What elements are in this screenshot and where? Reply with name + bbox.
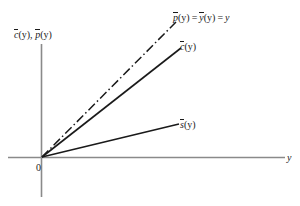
y-symbol: y — [225, 12, 229, 23]
curve-label-p-bar: p(y)=y(y)=y — [173, 12, 230, 23]
p-bar-symbol: p — [173, 12, 178, 23]
curve-p-bar — [42, 22, 176, 157]
y-axis-label-c-symbol: c — [14, 29, 18, 40]
p-bar-arg: (y) — [178, 12, 190, 23]
y-axis-label-p-symbol: p — [35, 29, 40, 40]
y-axis-label: c(y), p(y) — [14, 29, 52, 40]
curve-label-s-bar: s(y) — [180, 119, 196, 130]
s-bar-symbol: s — [180, 119, 184, 130]
c-bar-symbol: c — [180, 41, 184, 52]
x-axis-label: y — [287, 153, 291, 163]
origin-label: 0 — [36, 163, 41, 173]
s-bar-arg: (y) — [184, 119, 196, 130]
y-bar-symbol: y — [199, 12, 203, 23]
y-axis-label-c-arg: (y), — [18, 29, 32, 40]
y-bar-arg: (y) — [204, 12, 216, 23]
p-bar-equals-2: = — [215, 12, 225, 23]
y-axis-label-p-arg: (y) — [40, 29, 52, 40]
curve-label-c-bar: c(y) — [180, 41, 196, 52]
c-bar-arg: (y) — [184, 41, 196, 52]
figure-container: c(y), p(y) y 0 p(y)=y(y)=y c(y) s(y) — [0, 0, 300, 206]
p-bar-equals-1: = — [190, 12, 200, 23]
